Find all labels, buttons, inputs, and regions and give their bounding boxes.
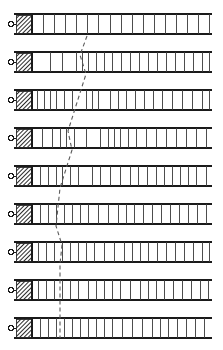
hatched-end-block (16, 15, 32, 33)
hatched-end-block (16, 91, 32, 109)
hatched-end-block (16, 281, 32, 299)
hatched-end-block (16, 53, 32, 71)
figure-canvas (0, 0, 223, 350)
hatched-end-block (16, 243, 32, 261)
hatched-end-block (16, 167, 32, 185)
hatched-end-block (16, 319, 32, 337)
hatched-end-block (16, 205, 32, 223)
hatched-end-block (16, 129, 32, 147)
ladder-correlation-svg (0, 0, 223, 350)
